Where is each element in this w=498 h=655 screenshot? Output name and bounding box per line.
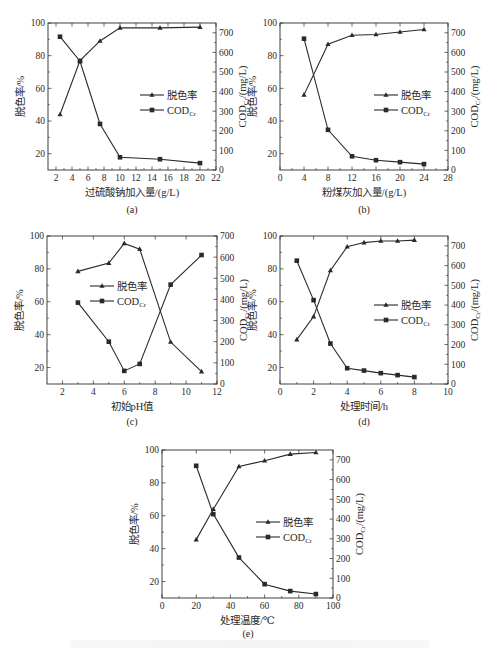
triangle-marker — [122, 241, 127, 246]
y-tick-label: 80 — [36, 51, 46, 61]
chart-c: 2468101220406080100010020030040050060070… — [13, 231, 251, 412]
x-tick-label: 16 — [371, 173, 381, 183]
triangle-marker — [194, 537, 199, 542]
square-marker — [288, 589, 293, 594]
y-tick-label: 40 — [268, 330, 278, 340]
triangle-marker — [168, 339, 173, 344]
legend-label-cod: CODCr — [283, 532, 313, 545]
y2-tick-label: 200 — [451, 126, 466, 136]
x-tick-label: 20 — [195, 173, 205, 183]
y2-tick-label: 600 — [336, 475, 351, 485]
y2-tick-label: 0 — [451, 379, 456, 389]
square-marker — [350, 154, 355, 159]
y-axis-title: 脱色率/% — [13, 289, 25, 331]
y-tick-label: 40 — [268, 116, 278, 126]
figure-caption-blurred — [70, 640, 430, 648]
x-tick-label: 16 — [163, 173, 173, 183]
chart-d: 0246810204060801000100200300400500600700… — [246, 231, 482, 412]
y2-tick-label: 400 — [451, 87, 466, 97]
square-marker — [58, 34, 63, 39]
square-marker — [314, 592, 319, 597]
y-tick-label: 60 — [268, 84, 278, 94]
x-axis-title: 处理温度/℃ — [220, 614, 275, 626]
square-marker — [262, 582, 267, 587]
chart-a: 2468101214161820222040608010001002003004… — [14, 18, 250, 199]
x-tick-label: 10 — [115, 173, 125, 183]
square-marker — [326, 128, 331, 133]
x-tick-label: 8 — [326, 173, 331, 183]
square-marker — [168, 282, 173, 287]
y-tick-label: 20 — [268, 149, 278, 159]
legend-square-icon — [150, 108, 155, 113]
legend-label-decolor: 脱色率 — [283, 516, 313, 528]
y2-tick-label: 600 — [219, 48, 234, 58]
y-axis-title: 脱色率/% — [14, 75, 26, 117]
legend-label-cod: CODCr — [401, 105, 431, 118]
x-tick-label: 6 — [378, 387, 383, 397]
y-axis-title: 脱色率/% — [246, 289, 258, 331]
y2-tick-label: 600 — [451, 261, 466, 271]
y2-tick-label: 400 — [220, 295, 235, 305]
y-tick-label: 100 — [145, 445, 160, 455]
y2-tick-label: 300 — [336, 534, 351, 544]
triangle-marker — [97, 38, 102, 43]
square-marker — [76, 300, 81, 305]
chart-b: 0481216202428204060801000100200300400500… — [246, 18, 482, 199]
y2-tick-label: 700 — [451, 28, 466, 38]
y2-tick-label: 500 — [336, 495, 351, 505]
y2-tick-label: 600 — [451, 48, 466, 58]
legend-label-cod: CODCr — [401, 315, 431, 328]
x-tick-label: 0 — [278, 173, 283, 183]
x-tick-label: 0 — [160, 601, 165, 611]
legend: 脱色率CODCr — [140, 89, 197, 118]
y2-tick-label: 500 — [220, 274, 235, 284]
figure: 2468101214161820222040608010001002003004… — [0, 0, 498, 655]
y2-tick-label: 700 — [219, 28, 234, 38]
y-tick-label: 20 — [35, 363, 45, 373]
legend-label-decolor: 脱色率 — [401, 89, 431, 101]
square-marker — [98, 122, 103, 127]
square-marker — [198, 161, 203, 166]
y-tick-label: 60 — [268, 297, 278, 307]
x-tick-label: 4 — [345, 387, 350, 397]
x-tick-label: 60 — [260, 601, 270, 611]
y2-tick-label: 100 — [451, 360, 466, 370]
y2-tick-label: 200 — [220, 337, 235, 347]
y2-tick-label: 200 — [219, 126, 234, 136]
square-marker — [137, 362, 142, 367]
square-marker — [328, 341, 333, 346]
square-marker — [237, 555, 242, 560]
y-tick-label: 80 — [35, 264, 45, 274]
y2-tick-label: 200 — [451, 340, 466, 350]
y-tick-label: 100 — [263, 18, 278, 28]
y2-tick-label: 100 — [336, 574, 351, 584]
legend-square-icon — [266, 535, 271, 540]
x-tick-label: 24 — [419, 173, 429, 183]
y-tick-label: 80 — [268, 264, 278, 274]
y2-tick-label: 300 — [451, 320, 466, 330]
triangle-marker — [301, 92, 306, 97]
x-axis-title: 粉煤灰加入量/(g/L) — [322, 186, 407, 199]
square-marker — [118, 155, 123, 160]
square-marker — [398, 160, 403, 165]
y-tick-label: 100 — [30, 231, 45, 241]
legend-label-decolor: 脱色率 — [401, 299, 431, 311]
y2-tick-label: 100 — [451, 146, 466, 156]
x-tick-label: 2 — [54, 173, 59, 183]
y2-axis-title: CODCr/(mg/L) — [354, 493, 367, 555]
square-marker — [295, 258, 300, 263]
y-tick-label: 100 — [31, 18, 46, 28]
legend-label-cod: CODCr — [167, 105, 197, 118]
y2-axis-title: CODCr/(mg/L) — [469, 279, 482, 341]
decolor-rate-line — [60, 27, 200, 114]
x-tick-label: 4 — [302, 173, 307, 183]
square-marker — [412, 375, 417, 380]
y-tick-label: 80 — [268, 51, 278, 61]
x-tick-label: 2 — [60, 387, 65, 397]
y2-tick-label: 700 — [336, 455, 351, 465]
legend-square-icon — [384, 318, 389, 323]
legend-label-decolor: 脱色率 — [117, 280, 147, 292]
legend: 脱色率CODCr — [256, 516, 313, 545]
x-tick-label: 6 — [86, 173, 91, 183]
square-marker — [422, 162, 427, 167]
